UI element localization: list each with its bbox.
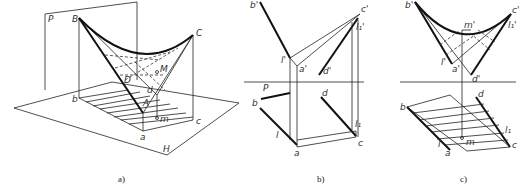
svg-text:D: D [124, 75, 131, 85]
svg-text:a: a [140, 132, 146, 142]
svg-text:l: l [276, 130, 279, 140]
svg-text:l': l' [281, 55, 286, 65]
svg-text:l₁: l₁ [355, 119, 362, 129]
svg-text:b: b [400, 102, 406, 112]
svg-text:l': l' [441, 57, 446, 67]
plane-h [14, 82, 239, 155]
label-P: P [48, 14, 54, 24]
svg-text:c: c [358, 138, 363, 148]
svg-text:c: c [196, 116, 201, 126]
svg-text:d': d' [323, 66, 331, 76]
svg-text:a': a' [452, 64, 460, 74]
svg-text:A: A [142, 98, 149, 108]
svg-text:d: d [147, 85, 153, 95]
svg-text:a: a [294, 148, 300, 158]
svg-text:a: a [445, 148, 451, 158]
caption-b: b) [317, 174, 325, 184]
svg-text:M: M [160, 64, 168, 74]
svg-text:m': m' [464, 20, 475, 30]
svg-text:P: P [263, 83, 269, 93]
caption-a: a) [118, 174, 125, 184]
svg-text:d: d [478, 89, 484, 99]
svg-text:d': d' [472, 74, 480, 84]
panel-c: b' c' m' l₁' l' a' d' b d l₁ l a m c c) [400, 0, 519, 184]
panel-b: b' c' l₁' l' a' d' P b d l₁ l a c b) [244, 0, 368, 184]
svg-text:l₁': l₁' [356, 22, 365, 32]
svg-text:m: m [466, 137, 475, 147]
panel-a: P B C D M A d b a c m H a) [14, 2, 239, 184]
hyperbolic-paraboloid-figure: P B C D M A d b a c m H a) b' c' l₁' l' … [0, 0, 523, 193]
svg-text:l₁: l₁ [505, 125, 512, 135]
svg-text:b: b [72, 94, 78, 104]
surface-curve [79, 18, 193, 54]
svg-text:c': c' [361, 4, 368, 14]
svg-text:l₁': l₁' [508, 20, 517, 30]
svg-text:c: c [512, 140, 517, 150]
svg-text:c': c' [512, 5, 519, 15]
svg-text:a': a' [299, 64, 307, 74]
svg-text:b': b' [250, 0, 258, 10]
svg-text:C: C [196, 28, 203, 38]
svg-text:b: b [252, 98, 258, 108]
svg-text:d: d [322, 88, 328, 98]
svg-text:H: H [163, 144, 170, 154]
svg-text:m: m [160, 114, 169, 124]
svg-text:b': b' [405, 0, 413, 10]
caption-c: c) [460, 174, 467, 184]
svg-text:B: B [72, 14, 78, 24]
